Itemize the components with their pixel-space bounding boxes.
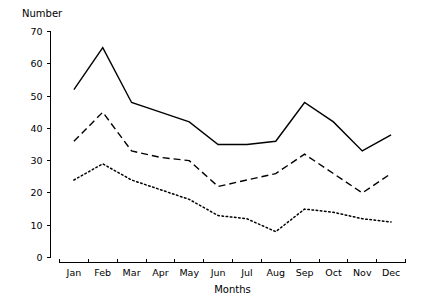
series-line-solid: [74, 48, 391, 151]
x-tick-label: Feb: [94, 267, 111, 278]
x-tick-label: Sep: [296, 267, 314, 278]
y-tick-label: 70: [30, 26, 42, 37]
x-tick-label: Mar: [123, 267, 141, 278]
y-tick-label: 10: [30, 220, 42, 231]
y-tick-label: 20: [30, 187, 42, 198]
y-tick-label: 40: [30, 123, 42, 134]
x-tick-label: Aug: [266, 267, 285, 278]
series-line-dotted: [74, 164, 391, 232]
line-chart: 010203040506070NumberJanFebMarAprMayJunJ…: [0, 0, 422, 305]
x-tick-label: Nov: [353, 267, 372, 278]
x-tick-label: Jul: [240, 267, 252, 278]
x-tick-label: Apr: [152, 267, 169, 278]
x-axis-title: Months: [214, 284, 251, 295]
y-tick-label: 0: [36, 252, 42, 263]
y-tick-label: 50: [30, 91, 42, 102]
y-axis-title: Number: [22, 8, 63, 19]
chart-canvas: 010203040506070NumberJanFebMarAprMayJunJ…: [0, 0, 422, 305]
x-tick-label: Oct: [325, 267, 342, 278]
x-tick-label: May: [179, 267, 199, 278]
series-line-dashed: [74, 112, 391, 193]
x-tick-label: Jun: [210, 267, 226, 278]
y-tick-label: 30: [30, 155, 42, 166]
x-tick-label: Dec: [382, 267, 400, 278]
x-tick-label: Jan: [66, 267, 82, 278]
y-tick-label: 60: [30, 58, 42, 69]
